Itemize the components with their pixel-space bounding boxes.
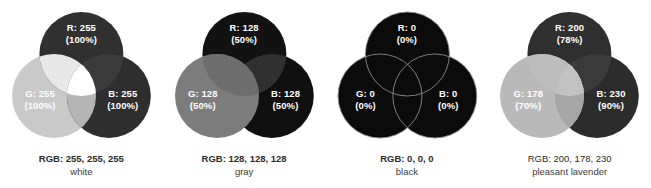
caption-color-name: pleasant lavender — [488, 165, 651, 178]
caption-rgb-line: RGB: 0, 0, 0 — [326, 152, 489, 165]
caption-lavender: RGB: 200, 178, 230 pleasant lavender — [488, 152, 651, 178]
rgb-venn-figure: R: 255 (100%) G: 255 (100%) B: 255 (100%… — [0, 0, 651, 188]
caption-gray: RGB: 128, 128, 128 gray — [163, 152, 326, 178]
caption-black: RGB: 0, 0, 0 black — [326, 152, 489, 178]
caption-color-name: black — [326, 165, 489, 178]
caption-color-name: white — [0, 165, 163, 178]
venn-svg-lavender — [488, 0, 651, 150]
venn-diagram-lavender: R: 200 (78%) G: 178 (70%) B: 230 (90%) — [488, 0, 651, 150]
venn-panel-lavender: R: 200 (78%) G: 178 (70%) B: 230 (90%) R… — [488, 0, 651, 188]
venn-panel-white: R: 255 (100%) G: 255 (100%) B: 255 (100%… — [0, 0, 163, 188]
venn-panel-black: R: 0 (0%) G: 0 (0%) B: 0 (0%) RGB: 0, 0,… — [326, 0, 489, 188]
caption-rgb-line: RGB: 255, 255, 255 — [0, 152, 163, 165]
venn-svg-white — [0, 0, 163, 150]
venn-diagram-white: R: 255 (100%) G: 255 (100%) B: 255 (100%… — [0, 0, 163, 150]
caption-rgb-line: RGB: 128, 128, 128 — [163, 152, 326, 165]
caption-white: RGB: 255, 255, 255 white — [0, 152, 163, 178]
venn-diagram-black: R: 0 (0%) G: 0 (0%) B: 0 (0%) — [326, 0, 489, 150]
venn-svg-black — [326, 0, 489, 150]
caption-color-name: gray — [163, 165, 326, 178]
venn-panel-gray: R: 128 (50%) G: 128 (50%) B: 128 (50%) R… — [163, 0, 326, 188]
venn-svg-gray — [163, 0, 326, 150]
caption-rgb-line: RGB: 200, 178, 230 — [488, 152, 651, 165]
venn-diagram-gray: R: 128 (50%) G: 128 (50%) B: 128 (50%) — [163, 0, 326, 150]
